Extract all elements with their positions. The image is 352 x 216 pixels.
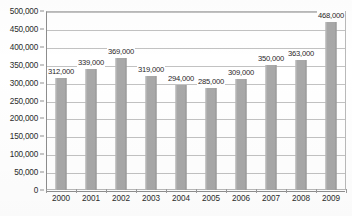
bar-slot: 312,000 [46,11,76,190]
bar-value-label: 350,000 [257,54,285,63]
x-tick-mark [196,189,197,193]
bar[interactable] [326,22,337,190]
y-tick-label: 250,000 [10,96,38,105]
bar[interactable] [86,69,97,190]
bar-slot: 363,000 [286,11,316,190]
bar-slot: 339,000 [76,11,106,190]
bar-value-label: 468,000 [317,11,345,20]
y-tick-mark [40,100,44,101]
x-tick-mark [316,189,317,193]
bar-slot: 285,000 [196,11,226,190]
x-tick-label: 2004 [172,194,190,203]
x-tick-mark [256,189,257,193]
y-axis: 050,000100,000150,000200,000250,000300,0… [0,11,44,190]
x-tick-label: 2002 [112,194,130,203]
y-tick-label: 150,000 [10,132,38,141]
bar-value-label: 319,000 [137,65,165,74]
bar-slot: 309,000 [226,11,256,190]
bar[interactable] [176,85,187,190]
x-tick-mark [226,189,227,193]
y-tick-label: 300,000 [10,78,38,87]
bar-value-label: 285,000 [197,77,225,86]
x-tick-label: 2009 [322,194,340,203]
bar-slot: 319,000 [136,11,166,190]
x-tick-label: 2008 [292,194,310,203]
y-tick-mark [40,11,44,12]
bar-slot: 468,000 [316,11,346,190]
x-tick-mark [46,189,47,193]
x-tick-label: 2000 [52,194,70,203]
y-tick-mark [40,136,44,137]
bar[interactable] [116,58,127,190]
y-tick-label: 500,000 [10,7,38,16]
bar[interactable] [236,79,247,190]
y-tick-mark [40,190,44,191]
bars-layer: 312,000339,000369,000319,000294,000285,0… [46,11,346,190]
x-tick-label: 2006 [232,194,250,203]
y-tick-mark [40,118,44,119]
bar[interactable] [266,65,277,190]
x-tick-mark [106,189,107,193]
bar-value-label: 363,000 [287,49,315,58]
x-tick-label: 2003 [142,194,160,203]
y-tick-label: 50,000 [14,168,38,177]
x-tick-mark [76,189,77,193]
bar-slot: 369,000 [106,11,136,190]
bar-value-label: 312,000 [47,67,75,76]
y-tick-mark [40,154,44,155]
bar[interactable] [56,78,67,190]
x-tick-mark [346,189,347,193]
x-axis: 2000200120022003200420052006200720082009 [46,192,346,212]
bar-slot: 350,000 [256,11,286,190]
bar-slot: 294,000 [166,11,196,190]
y-tick-label: 0 [34,186,38,195]
bar[interactable] [146,76,157,190]
y-tick-label: 100,000 [10,150,38,159]
y-tick-label: 200,000 [10,114,38,123]
y-tick-label: 400,000 [10,42,38,51]
y-tick-mark [40,82,44,83]
bar[interactable] [206,88,217,190]
y-tick-mark [40,28,44,29]
y-tick-label: 450,000 [10,24,38,33]
y-tick-mark [40,64,44,65]
bar-value-label: 294,000 [167,74,195,83]
x-tick-label: 2007 [262,194,280,203]
x-tick-mark [286,189,287,193]
x-tick-mark [136,189,137,193]
y-tick-mark [40,172,44,173]
x-tick-label: 2005 [202,194,220,203]
bar[interactable] [296,60,307,190]
y-tick-mark [40,46,44,47]
bar-value-label: 339,000 [77,58,105,67]
bar-chart: 050,000100,000150,000200,000250,000300,0… [0,0,352,216]
y-tick-label: 350,000 [10,60,38,69]
bar-value-label: 309,000 [227,68,255,77]
x-tick-mark [166,189,167,193]
x-tick-label: 2001 [82,194,100,203]
bar-value-label: 369,000 [107,47,135,56]
